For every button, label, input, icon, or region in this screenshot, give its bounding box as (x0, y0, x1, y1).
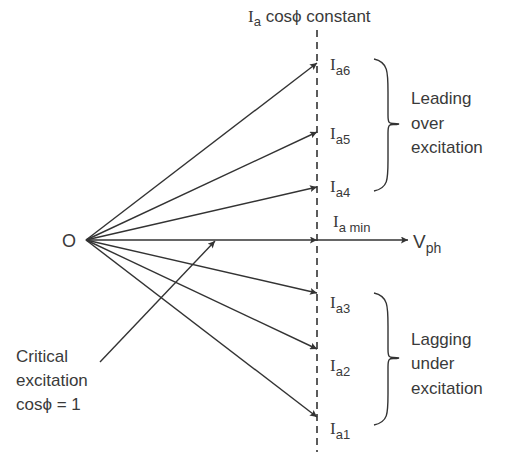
label-ia4: Ia4 (330, 177, 350, 200)
label-ia5: Ia5 (330, 124, 350, 147)
phasor-ia5 (86, 132, 317, 240)
phasor-arrows (86, 63, 408, 417)
diagram-title: Ia cosϕ constant (248, 7, 371, 29)
critical-pointer (100, 241, 215, 362)
leading-brace (374, 59, 399, 191)
critical-excitation-label: Critical excitation cosϕ = 1 (16, 347, 93, 414)
leading-label: Leading over excitation (411, 89, 483, 157)
label-ia2: Ia2 (330, 356, 350, 379)
label-ia6: Ia6 (330, 55, 350, 78)
label-ia1: Ia1 (330, 419, 350, 442)
label-ia3: Ia3 (330, 293, 350, 316)
phasor-diagram: Ia cosϕ constant O Ia6 Ia5 Ia4 Ia min Ia… (0, 0, 525, 472)
label-ia-min: Ia min (333, 212, 370, 235)
phasor-ia2 (86, 240, 317, 349)
label-vph: Vph (413, 231, 441, 256)
lagging-label: Lagging under excitation (411, 330, 483, 398)
origin-label: O (62, 231, 76, 251)
lagging-brace (374, 293, 399, 425)
